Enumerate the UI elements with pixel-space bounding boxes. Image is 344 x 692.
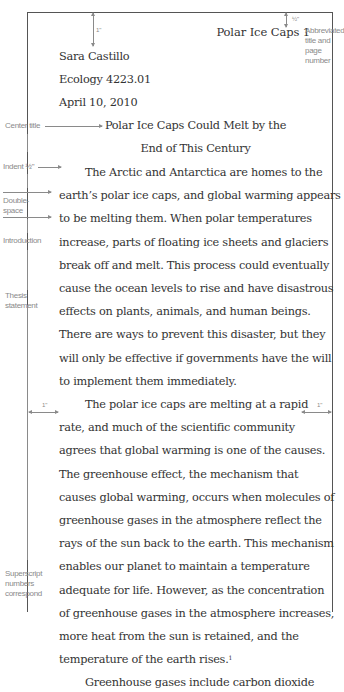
double-space-arrow-bottom [3, 217, 51, 218]
annotation-double-space: Double- space [3, 196, 29, 216]
annotation-center-title: Center title [5, 121, 40, 131]
para2-line: The greenhouse effect, the mechanism tha… [59, 463, 304, 486]
para2-line: rate, and much of the scientific communi… [59, 416, 304, 439]
thesis-line: will only be effective if governments ha… [59, 347, 304, 370]
header-margin-label: ½" [292, 16, 299, 22]
footnote-superscript: 1 [229, 654, 233, 661]
annotation-line: title and [305, 36, 344, 46]
para1-line: increase, parts of floating ice sheets a… [59, 231, 304, 254]
annotation-line: Double- [3, 196, 29, 206]
title-line-2: End of This Century [73, 137, 318, 160]
para2-line: rays of the sun back to the earth. This … [59, 532, 304, 555]
right-margin-arrow [302, 412, 331, 413]
para2-line: of greenhouse gases in the atmosphere in… [59, 602, 304, 625]
right-margin-label: 1" [317, 402, 322, 408]
annotation-thesis: Thesis statement [5, 291, 37, 311]
para1-line: break off and melt. This process could e… [59, 254, 304, 277]
thesis-line: to implement them immediately. [59, 370, 304, 393]
para2-line: The polar ice caps are melting at a rapi… [59, 393, 304, 416]
annotation-connector [27, 174, 28, 188]
para1-line: cause the ocean levels to rise and have … [59, 277, 304, 300]
annotation-superscript: Superscript numbers correspond [5, 569, 42, 599]
annotation-line: page [305, 46, 344, 56]
annotation-connector [27, 305, 28, 560]
para3-line: Greenhouse gases include carbon dioxide [59, 671, 304, 692]
annotation-abbreviated-title: Abbreviated title and page number [305, 26, 344, 66]
title-block: Polar Ice Caps Could Melt by the End of … [73, 114, 318, 160]
annotation-line: correspond [5, 589, 42, 599]
annotation-indent: Indent ½" [3, 162, 34, 172]
para2-line: greenhouse gases in the atmosphere refle… [59, 509, 304, 532]
top-margin-label: 1" [96, 27, 101, 33]
para1-line: earth’s polar ice caps, and global warmi… [59, 184, 304, 207]
center-title-arrow [45, 126, 102, 127]
annotation-line: numbers [5, 579, 42, 589]
para1-line: The Arctic and Antarctica are homes to t… [59, 161, 304, 184]
course-name: Ecology 4223.01 [59, 68, 304, 91]
body-text: The Arctic and Antarctica are homes to t… [59, 161, 304, 692]
para2-line: adequate for life. However, as the conce… [59, 579, 304, 602]
annotation-line: Thesis [5, 291, 37, 301]
title-line-1: Polar Ice Caps Could Melt by the [73, 114, 318, 137]
left-margin-label: 1" [42, 402, 47, 408]
thesis-line: There are ways to prevent this disaster,… [59, 323, 304, 346]
annotation-connector [27, 219, 28, 233]
top-margin-arrow [93, 13, 94, 46]
author-name: Sara Castillo [59, 45, 304, 68]
indent-arrow [38, 167, 61, 168]
running-head: Polar Ice Caps 1 [216, 25, 310, 39]
para2-line: enables our planet to maintain a tempera… [59, 555, 304, 578]
para2-line: more heat from the sun is retained, and … [59, 625, 304, 648]
para1-line: effects on plants, animals, and human be… [59, 300, 304, 323]
left-margin-arrow [29, 412, 58, 413]
para1-line: to be melting them. When polar temperatu… [59, 207, 304, 230]
para2-line: agrees that global warming is one of the… [59, 439, 304, 462]
annotation-line: space [3, 206, 29, 216]
para2-line: causes global warming, occurs when molec… [59, 486, 304, 509]
double-space-arrow-top [3, 192, 51, 193]
annotation-line: Abbreviated [305, 26, 344, 36]
annotation-introduction: Introduction [3, 236, 41, 246]
date: April 10, 2010 [59, 91, 304, 114]
para2-last-text: temperature of the earth rises. [59, 653, 229, 666]
annotation-connector [27, 250, 28, 290]
heading-block: Sara Castillo Ecology 4223.01 April 10, … [59, 45, 304, 115]
annotation-line: statement [5, 301, 37, 311]
para2-line: temperature of the earth rises.1 [59, 648, 304, 671]
annotation-connector [27, 134, 28, 152]
annotation-line: number [305, 56, 344, 66]
annotation-line: Superscript [5, 569, 42, 579]
